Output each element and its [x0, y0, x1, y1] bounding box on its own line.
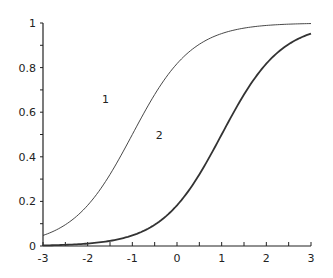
y-tick-label: 0.6 [19, 106, 37, 119]
x-tick-label: 1 [218, 252, 225, 265]
curve-label-1: 1 [102, 93, 109, 106]
x-tick-label: 0 [174, 252, 181, 265]
y-tick-label: 0 [29, 240, 36, 253]
curve-label-2: 2 [156, 129, 163, 142]
curves [43, 24, 311, 246]
y-tick-label: 0.4 [19, 151, 37, 164]
x-tick-label: -3 [38, 252, 49, 265]
x-tick-label: -1 [127, 252, 138, 265]
y-tick-label: 1 [29, 17, 36, 30]
chart: -3-2-1012300.20.40.60.81 12 [0, 0, 333, 278]
x-tick-label: -2 [82, 252, 93, 265]
curve-2 [43, 34, 311, 246]
x-tick-label: 2 [263, 252, 270, 265]
x-tick-label: 3 [308, 252, 315, 265]
axes: -3-2-1012300.20.40.60.81 [19, 17, 315, 265]
y-tick-label: 0.2 [19, 195, 37, 208]
curve-1 [43, 24, 311, 236]
y-tick-label: 0.8 [19, 62, 37, 75]
